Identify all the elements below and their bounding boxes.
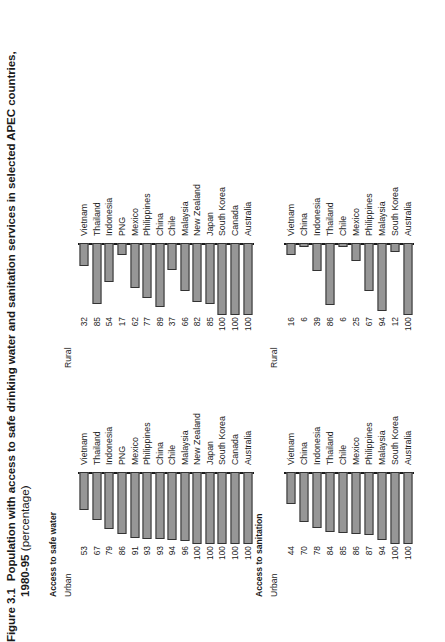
panel-sanitation-rural: 16Vietnam6China39Indonesia86Thailand6Chi… [284,243,414,315]
bar-track [299,243,308,315]
bar-category-label: Australia [403,202,412,236]
bar-track [168,243,177,315]
bar-category-label: Philippines [364,193,373,236]
chart-bar-row: 67Thailand [91,472,104,544]
bar-category-label: South Korea [218,416,227,465]
bar-value-label: 78 [312,546,320,555]
bar-value-label: 91 [130,546,138,555]
bar [403,243,412,315]
bar [325,472,334,532]
chart-bar-row: 78Indonesia [310,472,323,544]
chart-bar-row: 91Mexico [128,472,141,544]
bar-track [231,472,240,544]
bar-category-label: Mexico [351,437,360,465]
bar-value-label: 86 [325,317,333,326]
chart-bar-row: 100Canada [229,472,242,544]
chart-bar-row: 86Thailand [323,243,336,315]
bar [205,472,214,544]
bar-track [390,243,399,315]
bar-track [286,243,295,315]
bar-value-label: 89 [155,317,163,326]
bar-track [92,243,101,315]
bar [364,472,373,535]
bar [130,472,139,538]
bar-value-label: 44 [286,546,294,555]
bar [193,243,202,302]
bar [80,472,89,510]
chart-bar-row: 39Indonesia [310,243,323,315]
bar-value-label: 94 [377,546,385,555]
chart-bar-row: 93China [153,472,166,544]
bar-category-label: Australia [243,202,252,236]
bar-value-label: 53 [80,546,88,555]
bar [92,243,101,304]
bar-category-label: Canada [231,434,240,465]
bar [92,472,101,520]
bar-track [243,243,252,315]
bar [351,243,360,261]
bar-category-label: Indonesia [312,427,321,465]
bar [180,243,189,291]
bar [338,243,347,247]
chart-bar-row: 93Philippines [141,472,154,544]
bar-value-label: 39 [312,317,320,326]
bar-value-label: 66 [181,317,189,326]
bar [180,472,189,541]
bar-value-label: 85 [93,317,101,326]
chart-bar-row: 86PNG [116,472,129,544]
bar-category-label: Thailand [325,431,334,465]
bar-category-label: Philippines [143,422,152,465]
bar-track [218,243,227,315]
bar-track [377,243,386,315]
bar-value-label: 100 [218,317,226,331]
chart-bar-row: 16Vietnam [284,243,297,315]
bar-track [338,472,347,544]
bar-value-label: 100 [390,546,398,560]
chart-bar-row: 25Mexico [349,243,362,315]
bar-track [351,243,360,315]
bar-value-label: 85 [338,546,346,555]
bar-track [312,472,321,544]
chart-bar-row: 94Malaysia [375,243,388,315]
bar [193,472,202,544]
bar [155,472,164,539]
bar [231,243,240,315]
bar [390,472,399,544]
bar-track [143,472,152,544]
bar-track [130,472,139,544]
chart-bar-row: 32Vietnam [78,243,91,315]
bar-category-label: New Zealand [193,413,202,465]
bar [231,472,240,544]
bar-category-label: Philippines [143,193,152,236]
chart-bar-row: 85Japan [204,243,217,315]
bar-track [390,472,399,544]
bar-value-label: 16 [286,317,294,326]
chart-bar-row: 86Mexico [349,472,362,544]
bar-track [193,243,202,315]
bar [351,472,360,534]
bar [155,243,164,307]
bar-category-label: New Zealand [193,184,202,236]
panel-subtitle-water-rural: Rural [63,347,73,368]
bar [325,243,334,305]
chart-bar-row: 67Philippines [362,243,375,315]
bar-value-label: 77 [143,317,151,326]
bar [312,472,321,528]
bar-value-label: 54 [105,317,113,326]
bar [312,243,321,271]
chart-bar-row: 70China [297,472,310,544]
figure-unit: (percentage) [18,485,31,551]
chart-bar-row: 100Canada [229,243,242,315]
bar-value-label: 100 [193,546,201,560]
bar-category-label: Thailand [92,202,101,236]
bar-value-label: 86 [351,546,359,555]
chart-bar-row: 100Australia [401,472,414,544]
bar-track [193,472,202,544]
bar-category-label: PNG [118,446,127,465]
bar-track [80,243,89,315]
bar-value-label: 93 [155,546,163,555]
chart-bar-row: 79Indonesia [103,472,116,544]
bar-category-label: Vietnam [286,433,295,465]
bar [243,243,252,315]
